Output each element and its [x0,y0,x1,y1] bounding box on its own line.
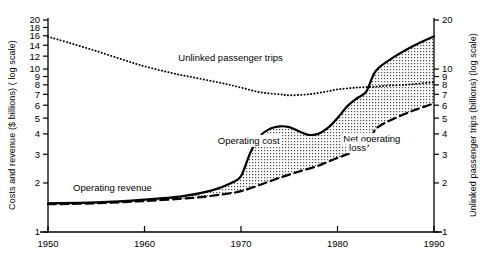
svg-text:1980: 1980 [327,238,348,249]
svg-text:20: 20 [442,14,453,25]
svg-text:14: 14 [29,40,40,51]
annotation-label: Operating cost [218,135,280,146]
svg-text:1970: 1970 [230,238,251,249]
annotation-label: Operating revenue [73,182,152,193]
svg-text:10: 10 [442,63,453,74]
svg-text:1950: 1950 [37,238,58,249]
svg-text:6: 6 [35,100,40,111]
svg-text:10: 10 [29,63,40,74]
svg-text:1990: 1990 [423,238,444,249]
svg-text:12: 12 [29,51,40,62]
svg-text:1: 1 [442,226,447,237]
series-unlinked-passenger-trips [48,37,434,96]
svg-text:1960: 1960 [134,238,155,249]
annotation-label: Unlinked passenger trips [178,52,283,63]
svg-text:7: 7 [442,89,447,100]
svg-text:6: 6 [442,100,447,111]
annotation-label: loss [349,142,366,153]
svg-text:4: 4 [35,128,40,139]
chart-figure: Costs and revenue ($ billions) ( log sca… [0,0,481,265]
svg-text:4: 4 [442,128,447,139]
svg-text:5: 5 [35,113,40,124]
svg-text:2: 2 [35,177,40,188]
svg-text:2: 2 [442,177,447,188]
svg-text:5: 5 [442,113,447,124]
y-axis-right-label: Unlinked passenger trips (billions) (log… [468,20,478,230]
svg-text:20: 20 [29,14,40,25]
svg-text:3: 3 [35,149,40,160]
svg-text:1: 1 [35,226,40,237]
y-axis-left-label: Costs and revenue ($ billions) ( log sca… [7,20,17,230]
chart-plot-area: 1234567891012141618201234567891020195019… [0,0,481,265]
svg-text:3: 3 [442,149,447,160]
svg-text:7: 7 [35,89,40,100]
